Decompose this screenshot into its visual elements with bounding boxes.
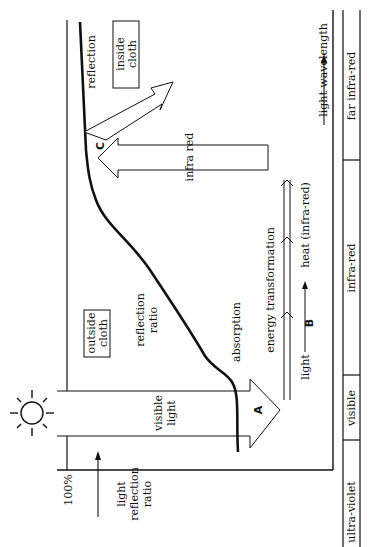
light-to-heat-arrow [302, 281, 308, 352]
band-infra-red: infra-red [345, 243, 358, 292]
light-label: light [299, 354, 312, 380]
inside-cloth-box: inside cloth [113, 21, 139, 88]
svg-text:cloth: cloth [126, 40, 139, 68]
reflection-diagram: ultra-violet visible infra-red far infra… [0, 0, 372, 547]
infra-red-label: infra red [183, 133, 196, 182]
y-top-label: 100% [62, 474, 75, 505]
band-far-infra-red: far infra-red [345, 52, 358, 120]
absorption-label: absorption [230, 302, 243, 362]
sun-icon [10, 390, 54, 436]
reflection-label: reflection [85, 35, 98, 88]
svg-text:cloth: cloth [97, 319, 110, 347]
energy-transformation-label: energy transformation [264, 227, 277, 353]
reflection-ratio-line1: reflection [134, 293, 147, 346]
marker-a: A [252, 405, 265, 414]
outside-cloth-box: outside cloth [84, 310, 110, 357]
y-axis-label-line3: ratio [141, 480, 154, 507]
reflection-ratio-line2: ratio [147, 306, 160, 333]
reflection-outgoing-arrow [84, 82, 173, 140]
visible-light-line1: visible [152, 395, 165, 432]
diagram-stage: ultra-violet visible infra-red far infra… [0, 0, 372, 547]
marker-c: C [94, 142, 107, 150]
y-axis-label-line1: light [115, 481, 128, 507]
y-axis-arrow [95, 451, 101, 517]
marker-b: B [303, 319, 316, 327]
band-visible: visible [345, 390, 358, 427]
band-ultra-violet: ultra-violet [345, 481, 358, 543]
heat-label: heat (infra-red) [299, 182, 312, 268]
energy-transformation-lines [281, 180, 293, 400]
y-axis-label-line2: reflection [128, 467, 141, 520]
visible-light-line2: light [165, 400, 178, 426]
